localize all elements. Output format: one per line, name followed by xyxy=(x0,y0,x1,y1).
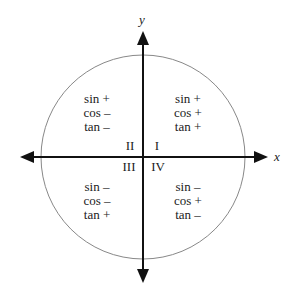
sign-line: tan – xyxy=(84,119,110,134)
quadrant-i-numeral: I xyxy=(155,138,159,153)
quadrant-iii-numeral: III xyxy=(123,159,136,174)
y-axis-label: y xyxy=(137,12,145,27)
sign-line: tan + xyxy=(84,207,110,222)
sign-line: sin + xyxy=(175,91,201,106)
sign-line: sin + xyxy=(84,91,110,106)
quadrant-i-signs: sin + cos + tan + xyxy=(174,91,202,134)
sign-line: sin – xyxy=(176,179,201,194)
arrow-down-icon xyxy=(137,269,149,283)
sign-line: tan – xyxy=(175,207,201,222)
arrow-up-icon xyxy=(137,31,149,45)
sign-line: tan + xyxy=(175,119,201,134)
quadrant-iv-numeral: IV xyxy=(151,159,165,174)
y-axis: y xyxy=(137,12,149,283)
quadrant-iv-signs: sin – cos + tan – xyxy=(174,179,202,222)
unit-circle-diagram: x y I II III IV sin + cos + tan + sin + … xyxy=(0,0,303,295)
sign-line: cos – xyxy=(83,105,111,120)
arrow-right-icon xyxy=(254,151,268,163)
sign-line: cos + xyxy=(174,105,202,120)
sign-line: sin – xyxy=(85,179,110,194)
arrow-left-icon xyxy=(20,151,34,163)
sign-line: cos – xyxy=(83,193,111,208)
quadrant-ii-signs: sin + cos – tan – xyxy=(83,91,111,134)
quadrant-ii-numeral: II xyxy=(126,138,135,153)
sign-line: cos + xyxy=(174,193,202,208)
quadrant-iii-signs: sin – cos – tan + xyxy=(83,179,111,222)
x-axis: x xyxy=(20,149,280,164)
x-axis-label: x xyxy=(273,149,280,164)
